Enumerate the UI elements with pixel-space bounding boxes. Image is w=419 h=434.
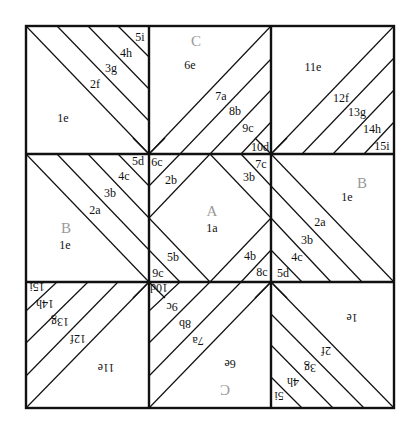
piece-label: 14h [363,123,381,135]
piece-label: 5b [167,251,179,263]
piece-label: 5i [135,31,144,43]
piece-label: 11e [305,61,322,73]
piece-label: 9c [242,122,253,134]
piece-label: 11e [98,362,115,374]
piece-label: 6e [224,358,235,370]
piece-label: 7c [255,158,266,170]
unit-label-b-left: B [61,221,71,236]
unit-label-c-bottom: C [220,382,230,397]
piece-label: 1a [206,222,217,234]
piece-label: 2f [90,78,100,90]
piece-label: 4c [118,170,129,182]
piece-label: 2a [314,216,325,228]
piece-label: 10d [150,282,168,294]
piece-label: 2f [321,345,331,357]
piece-label: 1e [59,239,70,251]
piece-label: 2b [165,174,177,186]
unit-label-a: A [207,204,218,219]
piece-label: 4c [291,251,302,263]
piece-label: 9c [152,267,163,279]
piece-label: 10d [251,141,269,153]
piece-label: 8b [229,105,241,117]
piece-label: 7a [215,90,226,102]
piece-label: 5i [274,390,283,402]
unit-label-b-right: B [357,176,367,191]
piece-label: 6c [151,156,162,168]
piece-label: 13g [51,316,69,328]
piece-label: 1e [346,312,357,324]
unit-label-c: C [191,34,201,49]
piece-label: 15i [29,281,44,293]
piece-label: 4b [244,250,256,262]
piece-label: 1e [341,191,352,203]
piece-label: 3g [105,62,117,74]
piece-label: 5d [132,155,144,167]
piece-label: 8b [179,318,191,330]
piece-label: 4h [287,376,299,388]
piece-label: 7a [192,335,203,347]
piece-label: 12f [70,333,86,345]
piece-label: 6e [184,59,195,71]
piece-label: 9c [166,301,177,313]
piece-label: 3g [304,362,316,374]
piece-label: 14h [36,298,54,310]
piece-label: 1e [57,112,68,124]
piece-label: 2a [89,204,100,216]
piece-label: 13g [348,106,366,118]
piece-label: 15i [374,140,389,152]
piece-label: 3b [301,234,313,246]
piece-label: 4h [120,47,132,59]
piece-label: 8c [256,266,267,278]
piece-label: 3b [243,171,255,183]
piece-label: 3b [104,187,116,199]
piece-label: 12f [333,92,349,104]
piece-label: 5d [277,267,289,279]
